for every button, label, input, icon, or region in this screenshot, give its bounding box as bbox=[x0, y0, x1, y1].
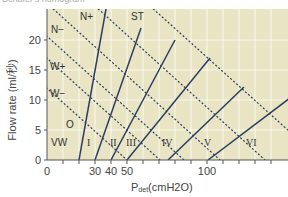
x-tick-50: 50 bbox=[121, 165, 133, 177]
y-tick-10: 10 bbox=[29, 94, 41, 106]
x-tick-40: 40 bbox=[105, 165, 117, 177]
y-tick-20: 20 bbox=[29, 34, 41, 46]
zone-label-w-plus: W+ bbox=[50, 61, 65, 72]
x-axis-label: Pdet(cmH2O) bbox=[131, 181, 193, 193]
y-tick-15: 15 bbox=[29, 64, 41, 76]
grade-label-6: VI bbox=[246, 137, 257, 148]
x-tick-30: 30 bbox=[89, 165, 101, 177]
x-tick-100: 100 bbox=[198, 165, 216, 177]
grade-label-3: III bbox=[126, 137, 136, 148]
zone-label-w-minus: W− bbox=[50, 88, 65, 99]
y-tick-0: 0 bbox=[35, 154, 41, 166]
x-tick-0: 0 bbox=[44, 165, 50, 177]
zone-label-n-minus: N− bbox=[51, 24, 64, 35]
y-tick-5: 5 bbox=[35, 124, 41, 136]
grade-label-5: V bbox=[204, 137, 212, 148]
grade-label-4: IV bbox=[162, 137, 173, 148]
schafer-nomogram-chart: 0 5 10 15 20 0 30 40 50 100 Flow rate (m… bbox=[0, 0, 288, 197]
zone-label-st: ST bbox=[131, 11, 144, 22]
zone-label-n-plus: N+ bbox=[80, 11, 93, 22]
y-axis-label: Flow rate (ml/秒) bbox=[5, 59, 18, 140]
zone-label-o: O bbox=[66, 119, 74, 130]
grade-label-1: I bbox=[87, 137, 90, 148]
grade-label-2: II bbox=[110, 137, 117, 148]
zone-label-vw: VW bbox=[51, 137, 68, 148]
